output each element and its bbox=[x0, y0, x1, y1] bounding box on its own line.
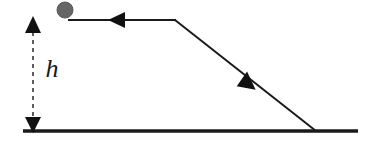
ball-icon bbox=[57, 2, 73, 18]
height-label-text: h bbox=[46, 54, 59, 83]
physics-diagram: h bbox=[0, 0, 369, 149]
diagram-canvas: h bbox=[0, 0, 369, 149]
